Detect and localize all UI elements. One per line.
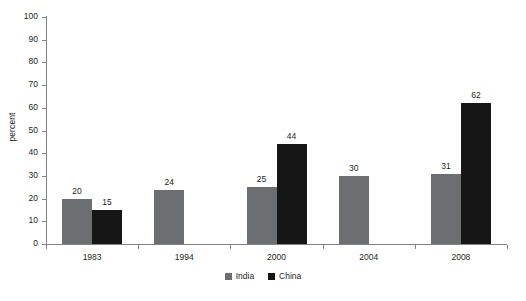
y-tick-label: 20 (29, 193, 38, 203)
bar-chart: percent 0102030405060708090100 201524254… (0, 0, 526, 301)
x-tick-mark (138, 245, 139, 249)
bar-value-label: 20 (72, 186, 81, 196)
bar-value-label: 44 (287, 131, 296, 141)
bar-china-2000[interactable]: 44 (277, 144, 307, 244)
y-axis-title: percent (7, 97, 17, 157)
bar-india-2000[interactable]: 25 (247, 187, 277, 244)
bar-group-2008: 3162 (431, 17, 491, 244)
bar-india-1994[interactable]: 24 (154, 190, 184, 244)
y-tick-label: 10 (29, 215, 38, 225)
bar-value-label: 62 (471, 90, 480, 100)
bar-india-2004[interactable]: 30 (339, 176, 369, 244)
bar-group-2004: 30 (339, 17, 399, 244)
y-tick-label: 70 (29, 79, 38, 89)
x-category-label-1994: 1994 (138, 252, 230, 262)
chart-legend: IndiaChina (0, 271, 526, 281)
bar-china-2008[interactable]: 62 (461, 103, 491, 244)
y-tick-label: 80 (29, 56, 38, 66)
x-tick-mark (323, 245, 324, 249)
legend-swatch-icon (225, 273, 232, 280)
bar-group-1983: 2015 (62, 17, 122, 244)
bar-value-label: 24 (165, 177, 174, 187)
x-tick-mark (415, 245, 416, 249)
bar-india-2008[interactable]: 31 (431, 174, 461, 244)
x-axis-line (46, 244, 507, 245)
x-category-label-2008: 2008 (415, 252, 507, 262)
y-tick-label: 40 (29, 147, 38, 157)
legend-item-india[interactable]: India (225, 271, 254, 281)
legend-label: China (279, 271, 301, 281)
bar-india-1983[interactable]: 20 (62, 199, 92, 244)
y-tick-label: 50 (29, 125, 38, 135)
y-tick-label: 90 (29, 34, 38, 44)
x-tick-mark (46, 245, 47, 249)
x-category-label-1983: 1983 (46, 252, 138, 262)
y-tick-label: 60 (29, 102, 38, 112)
x-category-label-2004: 2004 (323, 252, 415, 262)
legend-label: India (236, 271, 254, 281)
bar-value-label: 15 (102, 197, 111, 207)
bar-value-label: 30 (349, 163, 358, 173)
y-tick-label: 0 (33, 238, 38, 248)
y-tick-label: 100 (24, 11, 38, 21)
legend-swatch-icon (268, 273, 275, 280)
bar-value-label: 31 (441, 161, 450, 171)
plot-area: 2015242544303162 (46, 17, 507, 244)
x-tick-mark (230, 245, 231, 249)
legend-item-china[interactable]: China (268, 271, 301, 281)
bar-value-label: 25 (257, 174, 266, 184)
bar-group-1994: 24 (154, 17, 214, 244)
bar-china-1983[interactable]: 15 (92, 210, 122, 244)
y-tick-label: 30 (29, 170, 38, 180)
bar-group-2000: 2544 (247, 17, 307, 244)
x-tick-mark (507, 245, 508, 249)
x-category-label-2000: 2000 (230, 252, 322, 262)
